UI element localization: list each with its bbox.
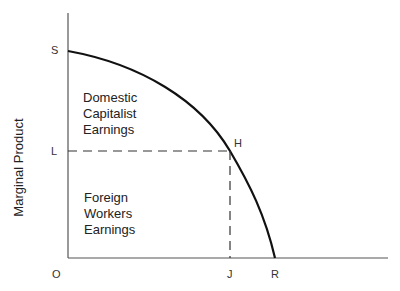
region-foreign-workers-earnings: Foreign Workers Earnings (84, 190, 135, 238)
region-domestic-capitalist-earnings: Domestic Capitalist Earnings (83, 90, 137, 138)
label-origin: O (52, 268, 61, 280)
label-j: J (227, 268, 233, 280)
y-axis-title: Marginal Product (11, 108, 26, 228)
label-r: R (271, 268, 279, 280)
label-h: H (234, 137, 242, 149)
label-s: S (51, 44, 58, 56)
region-top-line-2: Capitalist (83, 106, 137, 122)
region-bottom-line-1: Foreign (84, 190, 135, 206)
label-l: L (51, 145, 57, 157)
diagram-graphics (0, 0, 400, 291)
region-top-line-1: Domestic (83, 90, 137, 106)
region-bottom-line-3: Earnings (84, 222, 135, 238)
region-top-line-3: Earnings (83, 122, 137, 138)
region-bottom-line-2: Workers (84, 206, 135, 222)
marginal-product-diagram: S L H O J R Marginal Product Domestic Ca… (0, 0, 400, 291)
